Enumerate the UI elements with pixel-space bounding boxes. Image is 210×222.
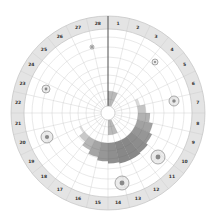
hub — [101, 106, 115, 120]
marker-cell-20 — [41, 131, 53, 143]
segment-label: 24 — [28, 62, 34, 67]
segment-label: 11 — [169, 174, 175, 179]
segment-label: 7 — [196, 100, 199, 105]
segment-label: 18 — [41, 174, 47, 179]
segment-label: 22 — [15, 100, 21, 105]
segment-label: 9 — [192, 140, 195, 145]
segment-label: 16 — [75, 196, 81, 201]
segment-label: 17 — [57, 187, 63, 192]
segment-label: 13 — [135, 196, 141, 201]
segment-label: 23 — [19, 81, 25, 86]
segment-label: 28 — [95, 21, 101, 26]
segment-label: 14 — [115, 200, 121, 205]
segment-label: 10 — [181, 159, 187, 164]
marker-cell-3 — [152, 59, 158, 65]
marker-cell-10 — [151, 150, 165, 164]
segment-label: 26 — [57, 34, 63, 39]
marker-cell-27 — [90, 45, 94, 49]
segment-label: 25 — [41, 47, 47, 52]
segment-label: 27 — [75, 25, 81, 30]
marker-cell-7 — [169, 96, 179, 106]
segment-label: 19 — [28, 159, 34, 164]
segment-label: 12 — [153, 187, 159, 192]
segment-label: 15 — [95, 200, 101, 205]
segment-label: 3 — [155, 34, 158, 39]
cycle-chart: 1234567891011121314151617181920212223242… — [0, 0, 210, 222]
segment-label: 5 — [183, 62, 186, 67]
segment-label: 2 — [136, 25, 139, 30]
marker-cell-23 — [42, 85, 50, 93]
segment-label: 4 — [170, 47, 173, 52]
marker-cell-15 — [115, 176, 129, 190]
segment-label: 6 — [192, 81, 195, 86]
segment-label: 8 — [196, 121, 199, 126]
segment-label: 1 — [117, 21, 120, 26]
segment-label: 21 — [15, 121, 21, 126]
segment-label: 20 — [19, 140, 25, 145]
